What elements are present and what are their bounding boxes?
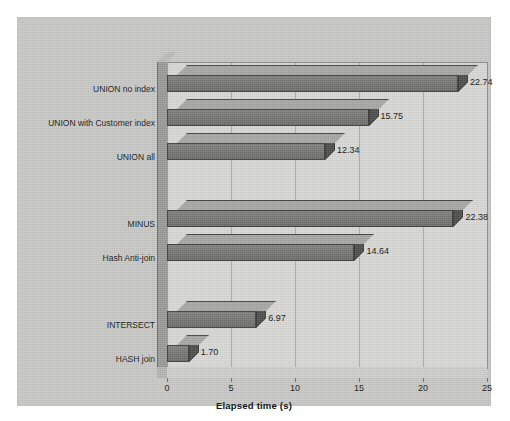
- category-label: MINUS: [128, 219, 155, 229]
- bar-value-label: 22.38: [465, 212, 488, 222]
- bar-value-label: 22.74: [470, 77, 493, 87]
- bar-front-face: [167, 210, 453, 227]
- x-axis-tick: [359, 378, 360, 382]
- x-axis-tick: [487, 378, 488, 382]
- x-axis-tick: [423, 378, 424, 382]
- bar-top-face: [177, 200, 473, 210]
- bar-front-face: [167, 75, 458, 92]
- bar-top-face: [177, 234, 374, 244]
- bar-top-face: [177, 301, 276, 311]
- bar-top-face: [177, 133, 345, 143]
- x-axis-tick: [167, 378, 168, 382]
- bar-value-label: 6.97: [268, 313, 286, 323]
- category-label: INTERSECT: [107, 320, 155, 330]
- chart-screenshot: UNION no index UNION with Customer index…: [0, 0, 510, 421]
- category-axis-labels: UNION no index UNION with Customer index…: [27, 62, 155, 367]
- bar-value-label: 15.75: [381, 111, 404, 121]
- bar-front-face: [167, 143, 325, 160]
- bar-front-face: [167, 244, 354, 261]
- bar-top-face: [177, 99, 389, 109]
- bar-value-label: 12.34: [337, 145, 360, 155]
- axis-wall-top-face: [157, 52, 177, 62]
- x-axis-tick-label: 10: [282, 383, 308, 394]
- x-axis-tick-label: 15: [346, 383, 372, 394]
- bar-value-label: 1.70: [201, 347, 219, 357]
- x-axis-tick: [295, 378, 296, 382]
- category-label: HASH join: [116, 354, 155, 364]
- bar-front-face: [167, 109, 369, 126]
- x-axis-tick-label: 5: [218, 383, 244, 394]
- x-axis-tick-label: 0: [154, 383, 180, 394]
- category-label: UNION no index: [93, 84, 155, 94]
- x-axis-tick-label: 25: [474, 383, 500, 394]
- bar-top-face: [177, 65, 478, 75]
- bar: [167, 65, 468, 92]
- category-label: UNION all: [117, 152, 155, 162]
- bar-front-face: [167, 311, 256, 328]
- bar: [167, 99, 379, 126]
- bar: [167, 301, 266, 328]
- x-axis-tick: [231, 378, 232, 382]
- category-label: UNION with Customer index: [48, 118, 155, 128]
- plot-floor: [157, 367, 487, 378]
- category-label: Hash Anti-join: [103, 253, 155, 263]
- bar: [167, 133, 335, 160]
- bar: [167, 335, 199, 362]
- x-axis-title: Elapsed time (s): [17, 400, 491, 411]
- bar-front-face: [167, 345, 189, 362]
- bar: [167, 200, 463, 227]
- chart-canvas: UNION no index UNION with Customer index…: [17, 17, 491, 406]
- bar: [167, 234, 364, 261]
- x-axis-tick-label: 20: [410, 383, 436, 394]
- bar-value-label: 14.64: [366, 246, 389, 256]
